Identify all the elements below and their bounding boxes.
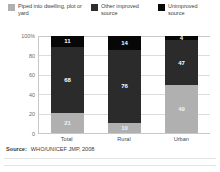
bar-segment-other-improved: 76 (108, 50, 141, 124)
source-label: Source: (6, 146, 27, 152)
divider (4, 165, 216, 166)
bar-segment-value: 47 (178, 60, 185, 66)
divider (4, 158, 216, 159)
bar-segment-piped: 21 (51, 113, 84, 133)
legend-label-unimproved: Unimproved source (168, 3, 214, 17)
legend-item-piped: Piped into dwelling, plot or yard (8, 3, 86, 17)
y-axis-tick: 60 (29, 72, 35, 78)
bar-segment-value: 10 (121, 125, 128, 131)
bar-segment-unimproved: 11 (51, 36, 84, 47)
bar-segment-value: 68 (64, 77, 71, 83)
bar-segment-value: 21 (64, 120, 71, 126)
y-axis-tick: 100% (21, 33, 35, 39)
chart-figure: Piped into dwelling, plot or yard Other … (0, 0, 220, 172)
bar-total: 11 68 21 (51, 36, 84, 133)
bar-group: 11 68 21 14 76 (39, 36, 210, 133)
legend-item-other-improved: Other improved source (91, 3, 153, 17)
bar-segment-value: 76 (121, 83, 128, 89)
y-axis-tick: 80 (29, 53, 35, 59)
bar-segment-piped: 10 (108, 123, 141, 133)
bar-segment-value: 14 (121, 40, 128, 46)
plot-area: 100% 80 60 40 20 0 11 68 (17, 36, 210, 134)
bar-segment-value: 11 (64, 38, 70, 44)
source-text: WHO/UNICEF JMP, 2008 (31, 146, 95, 152)
bar-rural: 14 76 10 (108, 36, 141, 133)
bar-segment-other-improved: 47 (165, 40, 198, 86)
plot-canvas: 11 68 21 14 76 (38, 36, 210, 134)
x-axis-label-urban: Urban (165, 136, 198, 142)
bar-segment-unimproved: 14 (108, 36, 141, 50)
source-note: Source:WHO/UNICEF JMP, 2008 (6, 146, 94, 152)
legend-swatch-unimproved-icon (158, 4, 165, 11)
y-axis-tick: 20 (29, 111, 35, 117)
legend-swatch-other-improved-icon (91, 4, 98, 11)
bar-segment-piped: 49 (165, 85, 198, 133)
y-axis: 100% 80 60 40 20 0 (17, 36, 37, 134)
legend-item-unimproved: Unimproved source (158, 3, 214, 17)
legend-swatch-piped-icon (8, 4, 15, 11)
x-axis-label-rural: Rural (107, 136, 140, 142)
x-axis: Total Rural Urban (38, 136, 210, 142)
bar-urban: 4 47 49 (165, 36, 198, 133)
legend-label-other-improved: Other improved source (101, 3, 153, 17)
bar-segment-value: 49 (178, 106, 185, 112)
y-axis-tick: 0 (32, 131, 35, 137)
y-axis-tick: 40 (29, 92, 35, 98)
chart-legend: Piped into dwelling, plot or yard Other … (8, 3, 216, 17)
legend-label-piped: Piped into dwelling, plot or yard (18, 3, 86, 17)
x-axis-label-total: Total (50, 136, 83, 142)
bar-segment-other-improved: 68 (51, 47, 84, 113)
